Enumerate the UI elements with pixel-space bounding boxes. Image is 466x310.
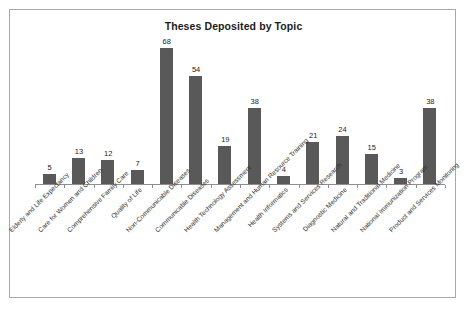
bar-group: 12 <box>95 40 121 184</box>
bar-value-label: 5 <box>37 163 63 172</box>
bar-value-label: 15 <box>359 143 385 152</box>
bar-group: 19 <box>212 40 238 184</box>
clipped-caption-artifact <box>12 302 452 310</box>
bar-group: 15 <box>359 40 385 184</box>
bar-group: 54 <box>183 40 209 184</box>
chart-frame: Theses Deposited by Topic 51312768541938… <box>9 9 456 298</box>
bar-value-label: 38 <box>417 97 443 106</box>
bar <box>131 170 144 184</box>
bar-group: 38 <box>242 40 268 184</box>
bar-value-label: 13 <box>66 147 92 156</box>
bar <box>248 108 261 184</box>
figure-canvas: Theses Deposited by Topic 51312768541938… <box>0 0 466 310</box>
bar-group: 13 <box>66 40 92 184</box>
bar <box>218 146 231 184</box>
bar-group: 3 <box>388 40 414 184</box>
bar <box>365 154 378 184</box>
bar <box>189 76 202 184</box>
chart-title: Theses Deposited by Topic <box>10 20 457 32</box>
x-axis-category-text: Communicable Diseases <box>154 177 211 234</box>
bar-group: 38 <box>417 40 443 184</box>
bar-group: 7 <box>125 40 151 184</box>
bar-value-label: 38 <box>242 97 268 106</box>
bar-value-label: 68 <box>154 37 180 46</box>
plot-area: 513127685419384212415338 <box>35 40 445 185</box>
bar-value-label: 19 <box>212 135 238 144</box>
bar <box>160 48 173 184</box>
bar-group: 24 <box>330 40 356 184</box>
bar-group: 5 <box>37 40 63 184</box>
bar-group: 21 <box>300 40 326 184</box>
bar <box>423 108 436 184</box>
bar-value-label: 24 <box>330 125 356 134</box>
bar-group: 68 <box>154 40 180 184</box>
bar-value-label: 12 <box>95 149 121 158</box>
x-axis-labels: Elderly and Life ExpectancyCare for Wome… <box>35 186 465 306</box>
bar-value-label: 7 <box>125 159 151 168</box>
bar <box>306 142 319 184</box>
bar-value-label: 54 <box>183 65 209 74</box>
bar <box>277 176 290 184</box>
